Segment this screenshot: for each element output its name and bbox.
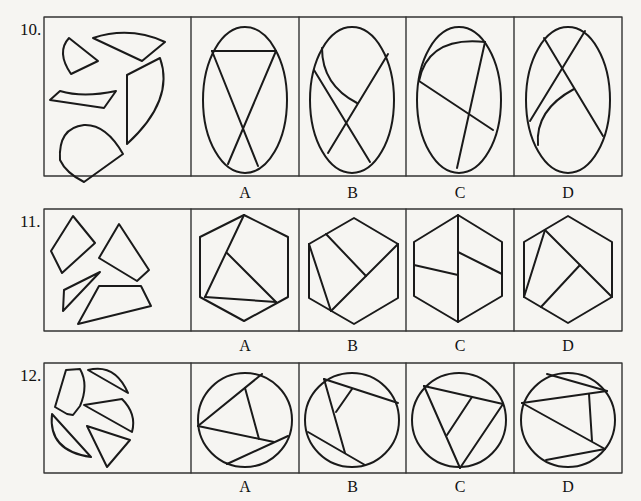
division-line bbox=[322, 48, 357, 103]
option-c-figure[interactable] bbox=[414, 215, 502, 322]
option-label-a[interactable]: A bbox=[225, 478, 265, 496]
division-line bbox=[227, 436, 288, 464]
option-label-b[interactable]: B bbox=[333, 184, 373, 202]
option-b-figure[interactable] bbox=[309, 218, 398, 324]
division-line bbox=[545, 230, 612, 297]
pieces-group bbox=[52, 369, 134, 467]
question-frame bbox=[44, 17, 622, 176]
question-number: 11. bbox=[20, 212, 41, 232]
division-line bbox=[326, 234, 366, 276]
ellipse-outline bbox=[203, 27, 287, 173]
division-line bbox=[522, 403, 605, 449]
division-line bbox=[460, 404, 503, 468]
option-label-a[interactable]: A bbox=[225, 184, 265, 202]
option-a-figure[interactable] bbox=[203, 27, 287, 173]
option-label-b[interactable]: B bbox=[333, 478, 373, 496]
division-line bbox=[336, 389, 352, 412]
option-label-a[interactable]: A bbox=[225, 337, 265, 355]
piece-shape bbox=[88, 369, 128, 393]
question-number: 12. bbox=[20, 366, 41, 386]
hexagon-outline bbox=[309, 218, 398, 324]
piece-shape bbox=[63, 272, 100, 311]
option-label-c[interactable]: C bbox=[440, 184, 480, 202]
option-label-d[interactable]: D bbox=[548, 478, 588, 496]
question-10 bbox=[44, 17, 622, 182]
piece-shape bbox=[93, 33, 165, 61]
division-line bbox=[530, 31, 585, 121]
division-line bbox=[541, 265, 580, 307]
piece-shape bbox=[52, 414, 91, 457]
division-line bbox=[419, 81, 493, 130]
piece-shape bbox=[99, 224, 149, 281]
division-line bbox=[324, 379, 345, 453]
division-line bbox=[424, 386, 503, 404]
division-line bbox=[547, 374, 607, 391]
division-line bbox=[447, 397, 472, 435]
question-11 bbox=[44, 209, 622, 331]
division-line bbox=[457, 42, 485, 168]
circle-outline bbox=[521, 373, 615, 467]
option-label-d[interactable]: D bbox=[548, 184, 588, 202]
division-line bbox=[544, 38, 603, 136]
option-a-figure[interactable] bbox=[200, 215, 288, 321]
division-line bbox=[198, 426, 274, 442]
piece-shape bbox=[78, 286, 151, 324]
piece-shape bbox=[127, 58, 164, 144]
option-label-c[interactable]: C bbox=[440, 478, 480, 496]
option-b-figure[interactable] bbox=[310, 27, 394, 173]
piece-shape bbox=[60, 125, 123, 182]
option-a-figure[interactable] bbox=[198, 373, 292, 467]
option-b-figure[interactable] bbox=[305, 373, 399, 467]
ellipse-outline bbox=[526, 27, 610, 173]
division-line bbox=[308, 432, 365, 465]
piece-shape bbox=[51, 216, 95, 273]
division-line bbox=[245, 388, 259, 439]
option-label-b[interactable]: B bbox=[333, 337, 373, 355]
question-12 bbox=[44, 363, 622, 473]
question-frame bbox=[44, 363, 622, 473]
division-line bbox=[589, 394, 592, 441]
piece-shape bbox=[50, 91, 116, 108]
division-line bbox=[205, 297, 276, 302]
division-line bbox=[458, 252, 502, 274]
option-d-figure[interactable] bbox=[524, 216, 612, 323]
division-line bbox=[227, 253, 276, 302]
piece-shape bbox=[63, 38, 98, 74]
option-c-figure[interactable] bbox=[417, 27, 501, 173]
pieces-group bbox=[50, 33, 165, 182]
division-line bbox=[328, 54, 388, 153]
option-d-figure[interactable] bbox=[521, 373, 615, 467]
division-line bbox=[538, 89, 574, 145]
division-line bbox=[522, 391, 607, 403]
division-line bbox=[414, 265, 458, 275]
piece-shape bbox=[55, 369, 85, 415]
option-d-figure[interactable] bbox=[526, 27, 610, 173]
ellipse-outline bbox=[417, 27, 501, 173]
option-label-d[interactable]: D bbox=[548, 337, 588, 355]
division-line bbox=[314, 70, 370, 162]
division-line bbox=[331, 244, 398, 311]
pieces-group bbox=[51, 216, 151, 324]
division-line bbox=[205, 215, 244, 297]
question-number: 10. bbox=[20, 20, 41, 40]
hexagon-outline bbox=[524, 216, 612, 323]
division-line bbox=[324, 379, 398, 403]
puzzle-canvas bbox=[0, 0, 641, 501]
hexagon-outline bbox=[200, 215, 288, 321]
option-c-figure[interactable] bbox=[412, 373, 506, 468]
piece-shape bbox=[87, 426, 130, 467]
option-label-c[interactable]: C bbox=[440, 337, 480, 355]
